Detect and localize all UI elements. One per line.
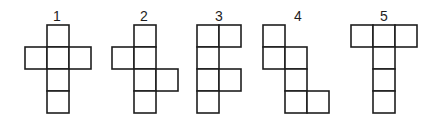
square-cell <box>134 69 156 91</box>
square-cell <box>373 91 395 113</box>
figure-label: 3 <box>215 8 223 24</box>
square-cell <box>285 69 307 91</box>
square-cell <box>307 91 329 113</box>
square-cell <box>47 91 69 113</box>
square-cell <box>263 47 285 69</box>
figure-label: 1 <box>53 8 61 24</box>
square-cell <box>197 25 219 47</box>
square-cell <box>373 47 395 69</box>
square-cell <box>47 47 69 69</box>
figure-label: 4 <box>294 8 302 24</box>
figure-5: 5 <box>351 8 417 113</box>
square-cell <box>112 47 134 69</box>
square-cell <box>395 25 417 47</box>
figure-label: 5 <box>380 8 388 24</box>
figure-2: 2 <box>112 8 178 113</box>
square-cell <box>373 25 395 47</box>
square-cell <box>197 69 219 91</box>
square-cell <box>373 69 395 91</box>
figure-1: 1 <box>25 8 91 113</box>
diagram-canvas: 1 2 3 4 5 <box>0 0 436 122</box>
square-cell <box>285 47 307 69</box>
square-cell <box>134 25 156 47</box>
square-cell <box>263 25 285 47</box>
square-cell <box>134 91 156 113</box>
square-cell <box>197 91 219 113</box>
figure-3: 3 <box>197 8 241 113</box>
square-cell <box>219 69 241 91</box>
square-cell <box>25 47 47 69</box>
figure-4: 4 <box>263 8 329 113</box>
square-cell <box>219 25 241 47</box>
square-cell <box>47 25 69 47</box>
square-cell <box>197 47 219 69</box>
square-cell <box>156 69 178 91</box>
square-cell <box>69 47 91 69</box>
figures-svg: 1 2 3 4 5 <box>0 0 436 122</box>
square-cell <box>47 69 69 91</box>
figure-label: 2 <box>140 8 148 24</box>
square-cell <box>351 25 373 47</box>
square-cell <box>134 47 156 69</box>
square-cell <box>285 91 307 113</box>
